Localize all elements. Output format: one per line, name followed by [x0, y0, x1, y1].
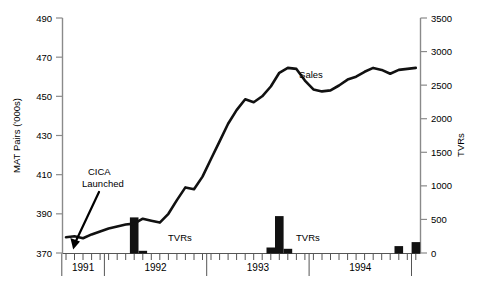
right-tick-label-3000: 3000: [431, 46, 452, 57]
bar-1992-07: [139, 251, 148, 254]
x-year-label-1991: 1991: [72, 262, 95, 273]
dual-axis-chart: 490 470 450 430 410 390 370 MAT Pairs ('…: [0, 0, 481, 287]
right-tick-label-1000: 1000: [431, 180, 452, 191]
right-tick-label-500: 500: [431, 214, 447, 225]
sales-series-label: Sales: [299, 69, 323, 80]
right-tick-label-1500: 1500: [431, 147, 452, 158]
x-year-label-1993: 1993: [247, 262, 270, 273]
left-tick-label-390: 390: [36, 208, 52, 219]
right-tick-label-3500: 3500: [431, 13, 452, 24]
x-month-ticks: [66, 254, 416, 261]
right-axis-title: TVRs: [455, 133, 466, 157]
x-year-label-1994: 1994: [349, 262, 372, 273]
left-tick-label-490: 490: [36, 13, 52, 24]
x-axis: 1991 1992 1993 1994: [62, 254, 421, 277]
chart-container: 490 470 450 430 410 390 370 MAT Pairs ('…: [0, 0, 481, 287]
bar-1993-03: [275, 216, 284, 253]
bar-1993-02: [267, 248, 276, 254]
left-axis-title: MAT Pairs ('000s): [11, 98, 22, 173]
tvrs-label-1993: TVRs: [296, 232, 320, 243]
tvrs-label-1992: TVRs: [168, 232, 192, 243]
left-y-axis: 490 470 450 430 410 390 370 MAT Pairs ('…: [11, 13, 63, 259]
left-tick-label-470: 470: [36, 52, 52, 63]
right-y-axis: 3500 3000 2500 2000 1500 1000 500 0 TVRs: [421, 13, 467, 259]
cica-annotation-line1: CICA: [88, 166, 111, 177]
bar-1994-04: [395, 246, 404, 253]
x-year-label-1992: 1992: [144, 262, 167, 273]
sales-line-series: [66, 68, 416, 238]
left-tick-label-430: 430: [36, 130, 52, 141]
left-tick-label-410: 410: [36, 169, 52, 180]
right-tick-label-2000: 2000: [431, 113, 452, 124]
cica-arrow-head: [70, 238, 80, 250]
left-tick-label-370: 370: [36, 248, 52, 259]
right-tick-label-0: 0: [431, 248, 436, 259]
right-tick-label-2500: 2500: [431, 80, 452, 91]
bar-1993-04: [284, 249, 293, 254]
cica-launched-annotation: CICA Launched: [70, 166, 123, 250]
cica-annotation-line2: Launched: [82, 178, 124, 189]
bar-1994-06: [412, 242, 421, 253]
left-tick-label-450: 450: [36, 91, 52, 102]
